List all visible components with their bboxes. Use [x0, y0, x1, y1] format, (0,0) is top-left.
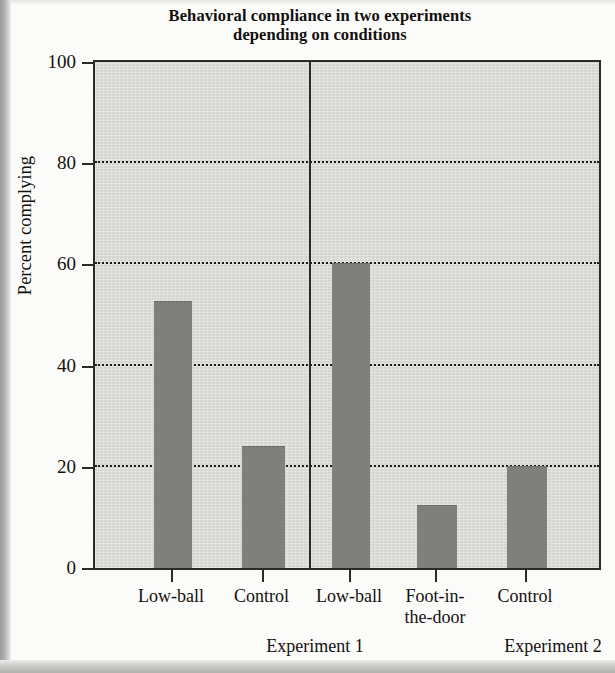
figure-page: Behavioral compliance in two experiments…	[0, 0, 615, 673]
y-tick-mark-60	[82, 264, 93, 266]
group-label-2: Experiment 2	[463, 636, 615, 657]
scan-edge-top	[0, 0, 615, 5]
bar-4	[417, 505, 457, 568]
plot-area	[93, 60, 601, 570]
bar-3	[332, 263, 370, 568]
y-tick-label-80: 80	[18, 153, 76, 172]
y-tick-mark-20	[82, 467, 93, 469]
x-tick-mark-4	[435, 570, 437, 582]
x-tick-label-4-line-2: the-door	[365, 607, 505, 628]
gridline-80	[95, 161, 599, 163]
x-tick-mark-2	[262, 570, 264, 582]
chart-title-line-2: depending on conditions	[60, 25, 580, 44]
x-tick-label-5: Control	[455, 586, 595, 607]
x-tick-mark-1	[171, 570, 173, 582]
x-tick-mark-5	[525, 570, 527, 582]
group-divider	[309, 62, 311, 568]
y-tick-mark-0	[82, 568, 93, 570]
y-tick-label-0: 0	[18, 558, 76, 577]
y-tick-label-20: 20	[18, 457, 76, 476]
y-tick-label-40: 40	[18, 356, 76, 375]
group-label-1: Experiment 1	[225, 636, 405, 657]
scan-edge-left	[0, 0, 11, 673]
y-axis-title: Percent complying	[15, 96, 36, 356]
y-tick-label-100: 100	[18, 52, 76, 71]
y-tick-label-60: 60	[18, 254, 76, 273]
bar-5	[507, 466, 547, 568]
y-tick-mark-80	[82, 163, 93, 165]
chart-title: Behavioral compliance in two experiments…	[60, 6, 580, 44]
scan-edge-bottom	[0, 660, 615, 673]
y-tick-mark-100	[82, 62, 93, 64]
bar-1	[154, 301, 192, 568]
x-tick-mark-3	[349, 570, 351, 582]
chart-title-line-1: Behavioral compliance in two experiments	[60, 6, 580, 25]
bar-2	[242, 446, 285, 568]
y-tick-mark-40	[82, 366, 93, 368]
x-tick-label-5-line-1: Control	[455, 586, 595, 607]
